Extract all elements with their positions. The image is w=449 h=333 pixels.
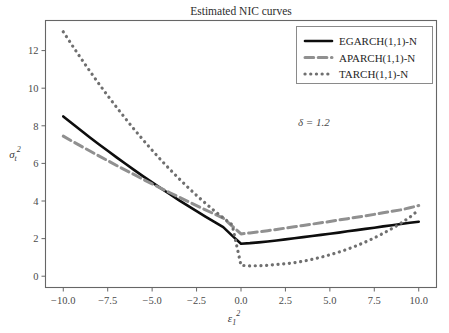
y-tick-label: 2 [33,233,38,244]
x-tick-label: 0.0 [234,295,247,306]
y-tick-label: 8 [33,121,38,132]
x-tick-label: −2.5 [187,295,206,306]
y-tick-label: 12 [28,45,39,56]
chart-annotations: δ = 1.2 [298,116,330,128]
x-tick-label: −7.5 [98,295,117,306]
x-tick-label: 5.0 [323,295,336,306]
nic-curves-chart: Estimated NIC curves −10.0−7.5−5.0−2.50.… [0,0,449,333]
chart-title: Estimated NIC curves [190,5,292,17]
x-tick-label: 10.0 [410,295,428,306]
delta-annotation: δ = 1.2 [298,116,330,128]
chart-figure: Estimated NIC curves −10.0−7.5−5.0−2.50.… [0,0,449,333]
x-tick-label: −5.0 [143,295,162,306]
y-tick-label: 0 [33,271,38,282]
x-tick-label: 2.5 [279,295,292,306]
chart-legend[interactable]: EGARCH(1,1)-NAPARCH(1,1)-NTARCH(1,1)-N [297,27,433,84]
y-tick-label: 6 [33,158,38,169]
legend-label: APARCH(1,1)-N [339,52,415,65]
y-axis-label-superscript: 2 [17,145,21,154]
x-axis-label-subscript: 1 [232,318,236,327]
legend-items: EGARCH(1,1)-NAPARCH(1,1)-NTARCH(1,1)-N [305,35,417,81]
x-tick-label: −10.0 [51,295,75,306]
x-tick-label: 7.5 [368,295,381,306]
legend-label: TARCH(1,1)-N [339,68,408,81]
x-axis-label-superscript: 2 [236,309,240,318]
legend-label: EGARCH(1,1)-N [339,35,417,48]
y-tick-label: 4 [33,196,39,207]
y-tick-label: 10 [28,83,39,94]
